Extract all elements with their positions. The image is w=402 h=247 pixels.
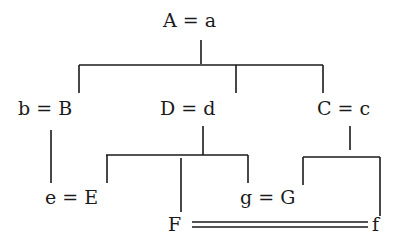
connector-lines xyxy=(0,0,402,247)
node-left-child: e = E xyxy=(45,188,98,207)
node-middle: D = d xyxy=(160,99,215,118)
node-mid-child-g: g = G xyxy=(240,188,295,207)
node-left: b = B xyxy=(18,99,72,118)
node-right: C = c xyxy=(317,99,370,118)
node-right-child-f: f xyxy=(372,215,379,234)
node-root: A = a xyxy=(163,11,216,30)
genealogy-diagram: A = a b = B D = d C = c e = E g = G F f xyxy=(0,0,402,247)
node-mid-child-f: F xyxy=(168,215,181,234)
